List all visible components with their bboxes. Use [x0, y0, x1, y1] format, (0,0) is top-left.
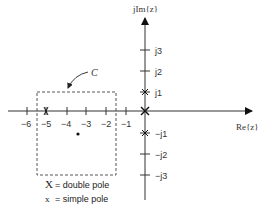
- real-tick-label: −3: [81, 119, 91, 129]
- contour-label: C: [91, 67, 98, 78]
- imag-axis-label: jIm{z}: [132, 4, 158, 14]
- real-tick-label: −1: [121, 119, 131, 129]
- imag-tick-label: −j1: [155, 129, 167, 139]
- legend-double-symbol: X: [45, 178, 53, 190]
- imag-tick-label: j2: [154, 67, 162, 77]
- contour-pointer-arrow: [68, 72, 88, 88]
- real-tick-label: −4: [61, 119, 71, 129]
- real-tick-label: −5: [41, 119, 51, 129]
- imag-tick-label: −j2: [155, 150, 167, 160]
- point-dot: [76, 132, 79, 135]
- real-tick-label: −2: [101, 119, 111, 129]
- imag-tick-label: j1: [154, 88, 162, 98]
- legend-simple-text: = simple pole: [55, 194, 108, 204]
- real-tick-label: −6: [21, 119, 31, 129]
- z-plane-diagram: jIm{z} Re{z} −6 −5 −4 −3 −2 −1 j3 j2 j1 …: [0, 0, 265, 209]
- imag-tick-label: j3: [154, 46, 162, 56]
- real-axis-label: Re{z}: [236, 122, 259, 132]
- legend-double-text: = double pole: [55, 180, 109, 190]
- legend-simple-symbol: x: [45, 194, 50, 204]
- imag-tick-label: −j3: [155, 171, 167, 181]
